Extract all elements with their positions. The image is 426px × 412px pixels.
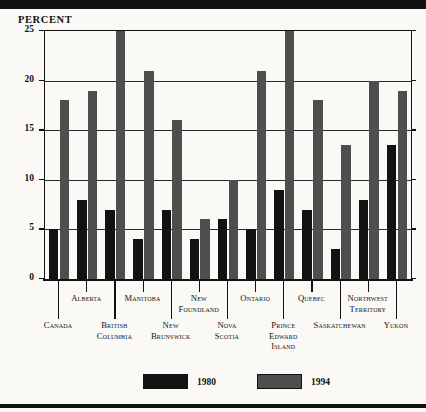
- y-tick-mark: [39, 129, 44, 130]
- bar-1980: [387, 145, 397, 279]
- bar-1994: [313, 100, 323, 279]
- bar-1980: [190, 239, 200, 279]
- legend-swatch: [143, 374, 188, 389]
- y-tick-mark-right: [411, 179, 416, 180]
- bar-1994: [144, 71, 154, 279]
- legend-label: 1994: [311, 377, 330, 387]
- x-category-tick: [396, 280, 397, 319]
- y-tick-mark-right: [411, 80, 416, 81]
- bar-1980: [274, 190, 284, 279]
- y-tick-label: 15: [8, 123, 34, 133]
- x-category-label: NorthwestTerritory: [308, 293, 426, 314]
- bar-1980: [77, 200, 87, 279]
- y-tick-mark-right: [411, 278, 416, 279]
- x-category-tick: [368, 280, 369, 292]
- plot-area: [44, 30, 412, 279]
- chart-legend: 19801994: [0, 374, 426, 394]
- bar-1994: [341, 145, 351, 279]
- y-tick-label: 25: [8, 24, 34, 34]
- bar-1980: [49, 229, 59, 279]
- bar-1994: [257, 71, 267, 279]
- x-category-tick: [199, 280, 200, 292]
- chart-page: PERCENT 0510152025 CanadaAlbertaBritishC…: [0, 0, 426, 412]
- legend-item[interactable]: 1980: [143, 374, 216, 389]
- bar-1994: [285, 31, 295, 279]
- bar-1994: [116, 31, 126, 279]
- y-tick-mark-right: [411, 228, 416, 229]
- y-tick-mark-right: [411, 129, 416, 130]
- bar-1994: [60, 100, 70, 279]
- bar-1994: [369, 81, 379, 279]
- top-rule: [0, 0, 426, 9]
- bar-1994: [398, 91, 408, 279]
- y-tick-mark: [39, 179, 44, 180]
- bar-1980: [331, 249, 341, 279]
- bar-1994: [200, 219, 210, 279]
- legend-item[interactable]: 1994: [257, 374, 330, 389]
- y-tick-mark: [39, 228, 44, 229]
- bar-1980: [133, 239, 143, 279]
- gridline: [45, 130, 411, 131]
- bar-1980: [218, 219, 228, 279]
- y-tick-label: 5: [8, 222, 34, 232]
- bar-1980: [162, 210, 172, 279]
- bar-1994: [172, 120, 182, 279]
- bar-1980: [302, 210, 312, 279]
- bar-1980: [359, 200, 369, 279]
- y-tick-label: 0: [8, 272, 34, 282]
- legend-swatch: [257, 374, 302, 389]
- y-tick-mark: [39, 278, 44, 279]
- bar-1994: [229, 180, 239, 279]
- y-tick-label: 20: [8, 74, 34, 84]
- y-tick-label: 10: [8, 173, 34, 183]
- gridline: [45, 81, 411, 82]
- y-tick-mark: [39, 80, 44, 81]
- bar-1980: [246, 229, 256, 279]
- legend-label: 1980: [197, 377, 216, 387]
- y-tick-mark: [39, 30, 44, 31]
- x-category-tick: [255, 280, 256, 292]
- x-category-tick: [86, 280, 87, 292]
- bar-1994: [88, 91, 98, 279]
- x-category-tick: [143, 280, 144, 292]
- bottom-rule: [0, 404, 426, 408]
- x-category-label: Yukon: [336, 320, 426, 331]
- bar-1980: [105, 210, 115, 279]
- y-tick-mark-right: [411, 30, 416, 31]
- x-category-tick: [311, 280, 312, 292]
